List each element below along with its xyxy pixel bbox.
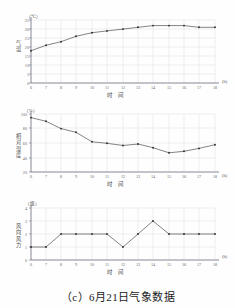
x-tick-temperature-2: 8 bbox=[56, 85, 66, 90]
x-tick-temperature-5: 11 bbox=[102, 85, 112, 90]
y-tick-wind-2: 2 bbox=[17, 232, 27, 237]
x-tick-temperature-11: 17 bbox=[194, 85, 204, 90]
x-tick-wind-0: 6 bbox=[26, 262, 36, 267]
x-tick-wind-11: 17 bbox=[194, 262, 204, 267]
y-tick-temperature-6: 30 bbox=[19, 27, 29, 32]
x-tick-wind-12: 18 bbox=[210, 262, 220, 267]
x-tick-humidity-3: 9 bbox=[71, 174, 81, 179]
y-tick-temperature-1: 5 bbox=[19, 72, 29, 77]
y-tick-wind-4: 4 bbox=[17, 206, 27, 211]
x-tick-wind-4: 10 bbox=[87, 262, 97, 267]
y-tick-temperature-2: 10 bbox=[19, 63, 29, 68]
x-tick-humidity-4: 10 bbox=[87, 174, 97, 179]
x-tick-wind-5: 11 bbox=[102, 262, 112, 267]
x-tick-temperature-10: 16 bbox=[179, 85, 189, 90]
y-tick-humidity-2: 60 bbox=[17, 141, 27, 146]
x-tick-wind-10: 16 bbox=[179, 262, 189, 267]
x-tick-wind-1: 7 bbox=[41, 262, 51, 267]
gridlines-humidity bbox=[31, 114, 215, 172]
figure-container: （℃） 气温 (h) bbox=[0, 0, 236, 308]
x-tick-humidity-2: 8 bbox=[56, 174, 66, 179]
x-tick-temperature-1: 7 bbox=[41, 85, 51, 90]
x-tick-temperature-9: 15 bbox=[164, 85, 174, 90]
x-tick-temperature-12: 18 bbox=[210, 85, 220, 90]
chart-temperature: （℃） 气温 (h) bbox=[0, 0, 236, 100]
x-tick-wind-8: 14 bbox=[148, 262, 158, 267]
x-tick-humidity-5: 11 bbox=[102, 174, 112, 179]
x-tick-humidity-7: 13 bbox=[133, 174, 143, 179]
x-tick-humidity-11: 17 bbox=[194, 174, 204, 179]
x-tick-temperature-4: 10 bbox=[87, 85, 97, 90]
axes-wind bbox=[29, 205, 219, 260]
x-tick-temperature-6: 12 bbox=[118, 85, 128, 90]
x-axis-title-humidity: 时 间 bbox=[107, 180, 125, 188]
y-tick-humidity-1: 40 bbox=[17, 156, 27, 161]
figure-caption: （c）6月21日气象数据 bbox=[0, 288, 236, 304]
x-tick-humidity-8: 14 bbox=[148, 174, 158, 179]
y-tick-temperature-4: 20 bbox=[19, 45, 29, 50]
x-tick-humidity-0: 6 bbox=[26, 174, 36, 179]
x-tick-humidity-1: 7 bbox=[41, 174, 51, 179]
x-tick-temperature-8: 14 bbox=[148, 85, 158, 90]
chart-wind: （级） 风向风力 (h) bbox=[0, 197, 236, 287]
axes-humidity bbox=[29, 111, 219, 172]
axes-temperature bbox=[29, 17, 219, 83]
y-tick-wind-3: 3 bbox=[17, 219, 27, 224]
x-tick-wind-3: 9 bbox=[71, 262, 81, 267]
x-tick-humidity-10: 16 bbox=[179, 174, 189, 179]
x-axis-title-temperature: 时 间 bbox=[107, 91, 125, 99]
y-tick-humidity-4: 100 bbox=[17, 112, 27, 117]
x-axis-title-wind: 时 间 bbox=[107, 268, 125, 276]
x-tick-humidity-6: 12 bbox=[118, 174, 128, 179]
x-tick-temperature-7: 13 bbox=[133, 85, 143, 90]
x-tick-wind-6: 12 bbox=[118, 262, 128, 267]
x-tick-temperature-0: 6 bbox=[26, 85, 36, 90]
x-tick-humidity-12: 18 bbox=[210, 174, 220, 179]
x-tick-wind-7: 13 bbox=[133, 262, 143, 267]
y-tick-humidity-3: 80 bbox=[17, 126, 27, 131]
x-tick-wind-9: 15 bbox=[164, 262, 174, 267]
y-tick-temperature-3: 15 bbox=[19, 54, 29, 59]
chart-humidity: （%） 相对湿度 (h) bbox=[0, 100, 236, 197]
x-tick-temperature-3: 9 bbox=[71, 85, 81, 90]
y-tick-wind-1: 1 bbox=[17, 245, 27, 250]
x-tick-wind-2: 8 bbox=[56, 262, 66, 267]
x-tick-humidity-9: 15 bbox=[164, 174, 174, 179]
y-tick-temperature-5: 25 bbox=[19, 36, 29, 41]
y-tick-temperature-7: 35 bbox=[19, 18, 29, 23]
